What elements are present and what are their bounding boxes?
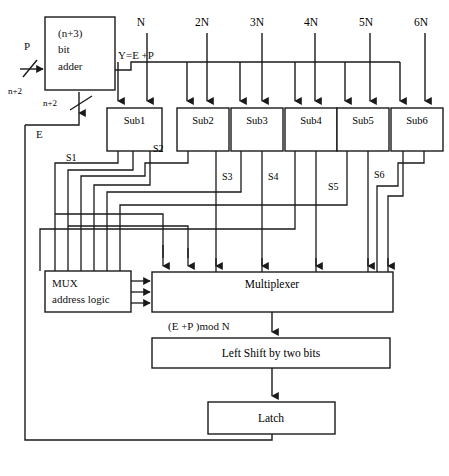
signal-label-s3: S3 [222,171,233,182]
adder-line2: bit [58,43,70,55]
sub-block-3-label: Sub3 [246,115,268,126]
left-shift-block: Left Shift by two bits [152,338,390,368]
mod-result-label: (E +P )mod N [168,320,230,333]
left-shift-label: Left Shift by two bits [222,347,321,360]
e-signal-label: E [36,128,43,140]
constant-label-5n: 5N [359,16,374,28]
signal-label-s4: S4 [268,171,279,182]
block-diagram-canvas: (n+3) bit adder P n+2 n+2 E Y=E +P [0,0,449,476]
mux-address-logic-line1: MUX [52,277,78,289]
e-width-label: n+2 [43,98,57,108]
signal-label-s5: S5 [328,181,339,192]
multiplexer-block: Multiplexer [152,272,393,312]
constant-label-3n: 3N [250,16,265,28]
signal-label-s2: S2 [153,143,164,154]
constant-label-6n: 6N [414,16,429,28]
latch-block: Latch [208,402,335,434]
latch-label: Latch [258,412,284,424]
sub-block-2-label: Sub2 [192,115,214,126]
sub-block-6-label: Sub6 [406,115,428,126]
constant-label-4n: 4N [304,16,319,28]
constant-label-2n: 2N [195,16,210,28]
signal-label-s6: S6 [374,169,385,180]
constant-label-n: N [137,16,146,28]
multiplexer-label: Multiplexer [245,278,299,291]
sub-block-6: Sub6 [391,108,443,151]
y-sum-label: Y=E +P [118,49,154,61]
p-input-label: P [24,40,30,52]
sub-block-4: Sub4 [285,108,337,151]
mux-address-logic-block: MUX address logic [45,271,131,312]
sub-block-1-label: Sub1 [124,115,146,126]
adder-line1: (n+3) [58,27,83,40]
sub-block-3: Sub3 [231,108,283,151]
p-width-label: n+2 [8,86,22,96]
mux-address-logic-line2: address logic [52,293,110,305]
sub-block-5-label: Sub5 [352,115,374,126]
sub-block-4-label: Sub4 [300,115,322,126]
signal-label-s1: S1 [66,152,77,163]
adder-block: (n+3) bit adder [45,17,115,90]
adder-line3: adder [58,60,83,72]
sub-block-5: Sub5 [337,108,389,151]
sub-block-2: Sub2 [177,108,229,151]
